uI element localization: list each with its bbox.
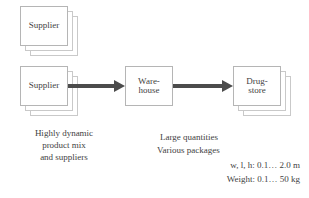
- node-box-supplier-top: Supplier: [20, 6, 68, 46]
- diagram-canvas: Supplier Supplier Ware- house Drug- stor…: [0, 0, 309, 198]
- caption-large-quantities: Large quantities: [160, 131, 300, 143]
- arrow-shaft: [68, 84, 114, 88]
- node-box-supplier-bottom: Supplier: [20, 66, 68, 106]
- node-label-drugstore: Drug- store: [246, 77, 268, 96]
- node-label-warehouse: Ware- house: [138, 77, 160, 96]
- arrow-warehouse-to-drugstore: [173, 80, 233, 92]
- caption-dimensions: w, l, h: 0.1… 2.0 m: [160, 159, 300, 171]
- arrow-head-icon: [222, 80, 233, 92]
- arrow-supplier-to-warehouse: [68, 80, 125, 92]
- caption-supplier-note: Highly dynamic product mix and suppliers: [12, 127, 116, 163]
- caption-weight: Weight: 0.1… 50 kg: [160, 173, 300, 185]
- node-label-supplier-bottom: Supplier: [29, 81, 60, 90]
- node-label-supplier-top: Supplier: [29, 21, 60, 30]
- node-box-warehouse: Ware- house: [125, 66, 173, 106]
- arrow-shaft: [173, 84, 222, 88]
- caption-various-packages: Various packages: [157, 144, 300, 156]
- node-box-drugstore: Drug- store: [233, 66, 281, 106]
- arrow-head-icon: [114, 80, 125, 92]
